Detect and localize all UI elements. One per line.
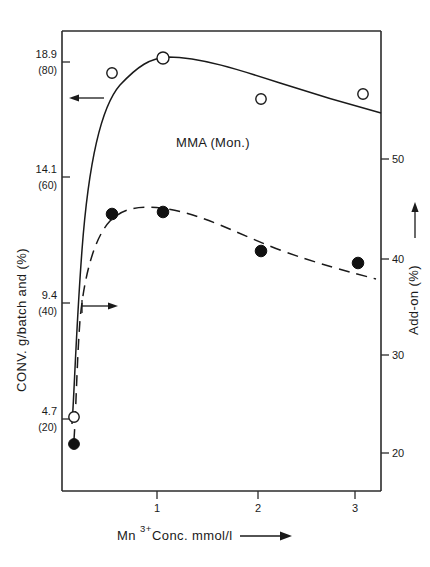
data-point-open-4 <box>358 89 368 99</box>
right-axis-title-arrow <box>411 202 418 238</box>
left-tick-label-primary-3: 4.7 <box>42 405 57 417</box>
right-axis-ticks <box>381 159 389 453</box>
right-pointer-head-icon <box>108 302 118 309</box>
x-axis-title-element: Mn <box>117 528 136 543</box>
x-axis-ticks <box>157 491 355 499</box>
data-point-open-2 <box>157 52 169 64</box>
right-axis-pointer-arrow <box>82 300 118 313</box>
x-tick-label-0: 1 <box>154 502 160 514</box>
right-tick-label-0: 50 <box>392 153 404 165</box>
right-axis-tick-labels: 50 40 30 20 <box>392 153 404 459</box>
y-axis-left-title: CONV. g/batch and (%) <box>14 248 29 392</box>
data-point-filled-3 <box>255 245 267 257</box>
left-tick-label-primary-1: 14.1 <box>36 163 57 175</box>
series-addon-markers <box>69 206 364 449</box>
left-axis-pointer-arrow <box>69 94 104 101</box>
left-tick-label-primary-0: 18.9 <box>36 48 57 60</box>
left-tick-label-secondary-2: (40) <box>38 305 57 317</box>
left-tick-label-secondary-0: (80) <box>38 64 57 76</box>
series-conv-curve <box>72 57 381 424</box>
left-axis-tick-labels: 18.9 (80) 14.1 (60) 9.4 (40) 4.7 (20) <box>36 48 57 433</box>
left-tick-label-secondary-1: (60) <box>38 179 57 191</box>
right-tick-label-1: 40 <box>392 253 404 265</box>
up-arrow-head-icon <box>411 202 418 212</box>
data-point-filled-0 <box>69 439 80 450</box>
series-addon-curve <box>74 207 376 440</box>
right-tick-label-3: 20 <box>392 447 404 459</box>
x-tick-label-2: 3 <box>352 502 358 514</box>
x-axis-title-charge: 3+ <box>140 523 152 534</box>
x-axis-tick-labels: 1 2 3 <box>154 502 358 514</box>
data-point-open-0 <box>69 412 79 422</box>
x-tick-label-1: 2 <box>255 502 261 514</box>
x-axis-title-rest: Conc. mmol/l <box>152 528 233 543</box>
x-axis-arrow-head-icon <box>280 532 292 541</box>
series-conv-markers <box>69 52 368 422</box>
data-point-filled-2 <box>157 206 169 218</box>
chart-canvas: 18.9 (80) 14.1 (60) 9.4 (40) 4.7 (20) 50… <box>0 0 430 567</box>
data-point-open-3 <box>256 94 266 104</box>
data-point-filled-1 <box>106 208 118 220</box>
series-annotation-mma: MMA (Mon.) <box>176 135 250 150</box>
y-axis-right-title: Add-on (%) <box>406 265 421 335</box>
data-point-filled-4 <box>352 257 364 269</box>
right-tick-label-2: 30 <box>392 349 404 361</box>
left-axis-ticks <box>62 62 70 419</box>
left-tick-label-secondary-3: (20) <box>38 421 57 433</box>
chart-figure: 18.9 (80) 14.1 (60) 9.4 (40) 4.7 (20) 50… <box>0 0 430 567</box>
left-tick-label-primary-2: 9.4 <box>42 289 57 301</box>
data-point-open-1 <box>107 68 117 78</box>
left-pointer-head-icon <box>69 94 79 101</box>
x-axis-title-group: Mn 3+ Conc. mmol/l <box>117 523 292 543</box>
